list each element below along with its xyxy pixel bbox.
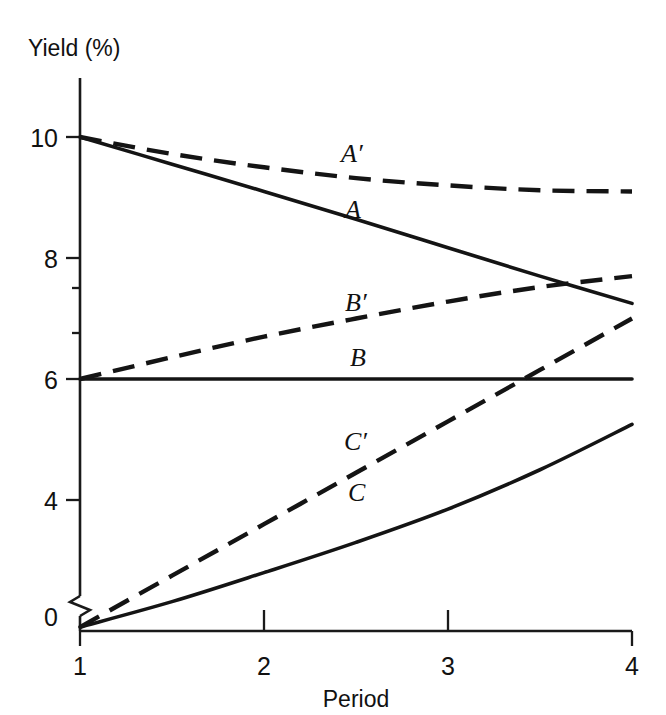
y-tick-label-6: 6 [44,366,58,394]
y-tick-label-4: 4 [44,487,58,515]
series-labels: A′ A B′ B C′ C [339,139,367,507]
x-axis-title: Period [323,686,389,712]
line-chart-svg: Yield (%) 10 [0,0,666,715]
series-label-C: C [348,478,366,507]
x-tick-label-1: 1 [73,652,87,680]
chart-figure: Yield (%) 10 [0,0,666,715]
series-label-A: A [343,195,361,224]
y-tick-label-8: 8 [44,245,58,273]
series-label-B-prime: B′ [345,288,367,317]
y-axis-title: Yield (%) [28,35,120,61]
y-tick-label-10: 10 [30,124,58,152]
series-label-C-prime: C′ [344,427,367,456]
series-label-A-prime: A′ [339,139,363,168]
x-tick-labels: 1 2 3 4 [73,652,639,680]
y-tick-label-0: 0 [44,603,58,631]
x-tick-label-3: 3 [441,652,455,680]
y-tick-labels: 10 8 6 4 0 [30,124,58,631]
x-tick-label-4: 4 [625,652,639,680]
x-tick-label-2: 2 [257,652,271,680]
series-label-B: B [350,343,366,372]
y-axis-break-icon [70,596,90,616]
